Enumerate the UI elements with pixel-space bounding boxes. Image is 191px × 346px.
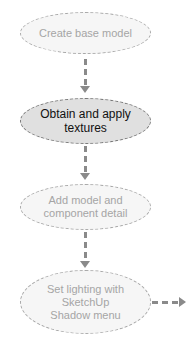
node-obtain-textures: Obtain and apply textures [20, 98, 151, 144]
arrow-down-icon [80, 86, 90, 93]
connector-1 [84, 59, 87, 85]
arrow-down-icon [80, 173, 90, 180]
connector-out [152, 301, 178, 304]
node-create-base-model: Create base model [20, 12, 151, 54]
connector-3 [84, 232, 87, 260]
node-label: Create base model [39, 27, 132, 40]
node-label: Add model and component detail [44, 194, 128, 220]
node-set-lighting: Set lighting with SketchUp Shadow menu [20, 270, 151, 334]
node-label: Set lighting with SketchUp Shadow menu [47, 283, 124, 322]
arrow-down-icon [80, 261, 90, 268]
connector-2 [84, 146, 87, 172]
arrow-right-icon [179, 297, 186, 307]
node-add-detail: Add model and component detail [20, 184, 151, 230]
node-label: Obtain and apply textures [40, 107, 131, 135]
